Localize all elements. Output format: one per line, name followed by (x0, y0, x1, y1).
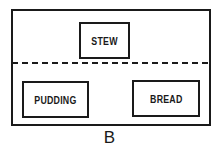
pudding-label: PUDDING (34, 94, 76, 106)
pudding-box: PUDDING (22, 81, 89, 118)
bread-label: BREAD (150, 93, 183, 105)
stew-box: STEW (79, 22, 130, 59)
bread-box: BREAD (132, 80, 200, 117)
diagram-caption: B (0, 128, 219, 148)
stew-label: STEW (91, 35, 117, 47)
dashed-divider (12, 62, 208, 64)
